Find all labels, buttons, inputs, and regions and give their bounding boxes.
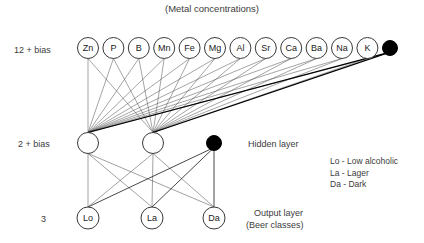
output-node-la-label: La [147,213,157,223]
hidden-node-2 [143,133,164,154]
edge-input-hidden [88,59,317,133]
legend-item-da: Da - Dark [330,179,398,191]
output-layer-subtitle: (Beer classes) [246,219,304,231]
hidden-layer-title: Hidden layer [248,138,299,150]
edge-input-bias-hidden [153,52,390,132]
input-node-sr-label: Sr [261,43,270,53]
input-node-al-label: Al [236,43,244,53]
output-node-da-label: Da [208,213,220,223]
output-layer-count-label: 3 [41,213,46,225]
output-node-lo-label: Lo [83,213,93,223]
edge-input-hidden [153,59,266,133]
neural-network-diagram: (Metal concentrations) ZnPBMnFeMgAlSrCaB… [0,0,424,243]
legend-item-lo: Lo - Low alcoholic [330,156,398,168]
input-bias-node [383,41,398,56]
hidden-layer-nodes [78,133,222,154]
edge-input-hidden [88,59,113,133]
edge-input-hidden [139,59,153,133]
input-layer-nodes: ZnPBMnFeMgAlSrCaBaNaK [78,38,398,59]
edge-input-hidden [113,59,153,133]
input-node-p-label: P [110,43,116,53]
output-layer-nodes: LoLaDa [77,207,225,229]
input-node-b-label: B [136,43,142,53]
hidden-node-1 [78,133,99,154]
output-layer-title: Output layer [254,207,303,219]
edge-input-hidden [88,59,240,133]
edge-hidden-output [152,154,153,208]
edge-input-hidden [88,59,190,133]
hidden-to-output-edges [88,148,214,208]
input-node-mn-label: Mn [158,43,171,53]
input-layer-count-label: 12 + bias [14,44,51,56]
input-node-na-label: Na [336,43,348,53]
edge-input-bias-hidden [88,52,390,132]
edge-input-hidden [88,59,153,133]
input-node-ca-label: Ca [285,43,297,53]
hidden-layer-count-label: 2 + bias [18,138,50,150]
input-node-mg-label: Mg [209,43,222,53]
input-to-hidden-edges [88,52,390,132]
edge-input-hidden [153,59,342,133]
input-node-fe-label: Fe [184,43,195,53]
edge-input-hidden [88,59,266,133]
edge-hidden-bias-output [88,148,214,208]
input-node-zn-label: Zn [83,43,94,53]
legend-item-la: La - Lager [330,168,398,180]
hidden-bias-node [207,136,222,151]
edge-hidden-bias-output [152,148,214,208]
edge-hidden-output [88,154,214,208]
input-node-k-label: K [364,43,370,53]
edge-input-hidden [153,59,291,133]
edge-input-hidden [88,59,215,133]
class-legend: Lo - Low alcoholic La - Lager Da - Dark [330,156,398,191]
input-node-ba-label: Ba [311,43,322,53]
network-graph: ZnPBMnFeMgAlSrCaBaNaK LoLaDa [0,0,424,243]
